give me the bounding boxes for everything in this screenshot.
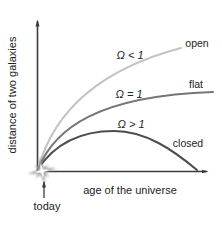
closed-label: closed (173, 137, 204, 149)
omega-gt-1-label: Ω > 1 (117, 118, 144, 130)
open-label: open (185, 37, 209, 49)
y-axis-label: distance of two galaxies (6, 36, 18, 153)
today-label: today (34, 200, 61, 212)
omega-eq-1-label: Ω = 1 (115, 88, 142, 100)
flat-label: flat (189, 78, 203, 90)
omega-lt-1-label: Ω < 1 (116, 49, 143, 61)
figure-canvas: distance of two galaxies age of the univ… (0, 0, 222, 228)
x-axis-label: age of the universe (83, 184, 177, 196)
universe-expansion-figure: distance of two galaxies age of the univ… (0, 0, 222, 228)
curve-flat (38, 92, 213, 169)
